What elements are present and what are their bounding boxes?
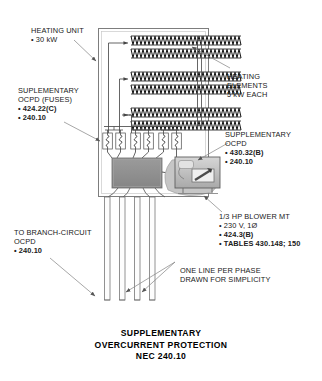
- label-supplementary-ocpd-motor-refs: • 430.32(B) • 240.10: [225, 148, 264, 166]
- label-blower-motor-refs: • 424.3(B) • TABLES 430.148; 150: [219, 230, 300, 248]
- diagram-title-line-1: SUPPLEMENTARY: [0, 328, 322, 340]
- label-branch-circuit-ocpd-refs: • 240.10: [14, 246, 42, 255]
- blower-motor-image[interactable]: [165, 157, 220, 196]
- diagram-title-line-2: OVERCURRENT PROTECTION: [0, 340, 322, 352]
- label-suplementary-ocpd-fuses-refs: • 424.22(C) • 240.10: [18, 104, 57, 122]
- feeder-conductors: [105, 188, 166, 300]
- label-heating-elements: HEATING ELEMENTS 5 kW EACH: [227, 72, 268, 99]
- schematic-drawing: [0, 0, 322, 381]
- label-blower-motor-heading: 1/3 HP BLOWER MT • 230 V, 1Ø: [219, 212, 290, 230]
- diagram-title-line-3: NEC 240.10: [0, 351, 322, 363]
- label-branch-circuit-ocpd-heading: TO BRANCH-CIRCUIT OCPD: [14, 228, 92, 246]
- label-suplementary-ocpd-fuses-heading: SUPLEMENTARY OCPD (FUSES): [18, 86, 79, 104]
- label-one-line-per-phase-note: ONE LINE PER PHASE DRAWN FOR SIMPLICITY: [180, 266, 270, 284]
- diagram-page: HEATING UNIT • 30 kW SUPLEMENTARY OCPD (…: [0, 0, 322, 381]
- label-supplementary-ocpd-motor-heading: SUPPLEMENTARY OCPD: [225, 130, 291, 148]
- label-heating-unit: HEATING UNIT • 30 kW: [31, 26, 84, 44]
